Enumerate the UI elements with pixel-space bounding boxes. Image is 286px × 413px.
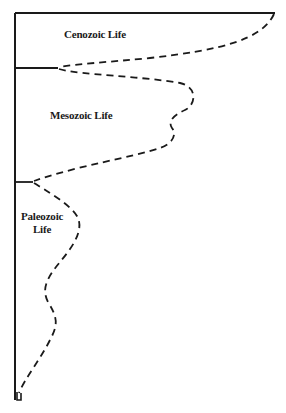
bottom-hook xyxy=(17,392,21,400)
diagram-canvas xyxy=(0,0,286,413)
paleozoic-label-line2: Life xyxy=(21,223,63,236)
life-diversity-diagram: Cenozoic Life Mesozoic Life Paleozoic Li… xyxy=(0,0,286,413)
paleozoic-label: Paleozoic Life xyxy=(21,210,63,236)
cenozoic-label: Cenozoic Life xyxy=(64,28,126,41)
paleozoic-label-line1: Paleozoic xyxy=(21,210,63,223)
mesozoic-diversity-curve xyxy=(34,69,193,181)
mesozoic-label: Mesozoic Life xyxy=(50,109,112,122)
